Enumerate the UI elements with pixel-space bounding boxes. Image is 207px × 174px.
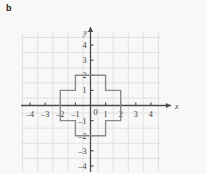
y-axis-arrowhead	[88, 27, 93, 32]
figure-panel: b –4–3–2–11234 4321–1–2–3–4 0 x y	[0, 0, 207, 174]
y-axis-label: y	[83, 28, 88, 37]
y-tick-label: –4	[77, 162, 86, 171]
y-tick-label: –3	[77, 147, 86, 156]
x-tick-label: 1	[104, 110, 108, 119]
origin-label: 0	[94, 108, 98, 117]
y-tick-label: 1	[82, 86, 86, 95]
y-tick-label: 3	[82, 56, 86, 65]
x-tick-label: –4	[25, 110, 34, 119]
axes	[21, 27, 171, 172]
x-tick-label: 4	[149, 110, 153, 119]
x-tick-label: 3	[134, 110, 138, 119]
x-axis-tick-labels: –4–3–2–11234	[25, 110, 153, 119]
x-axis-label: x	[174, 102, 179, 111]
y-tick-label: 4	[82, 41, 86, 50]
y-tick-label: –1	[77, 117, 86, 126]
x-tick-label: –3	[40, 110, 49, 119]
x-axis-arrowhead	[166, 103, 171, 108]
coordinate-plane-plot: –4–3–2–11234 4321–1–2–3–4 0 x y	[0, 0, 207, 174]
